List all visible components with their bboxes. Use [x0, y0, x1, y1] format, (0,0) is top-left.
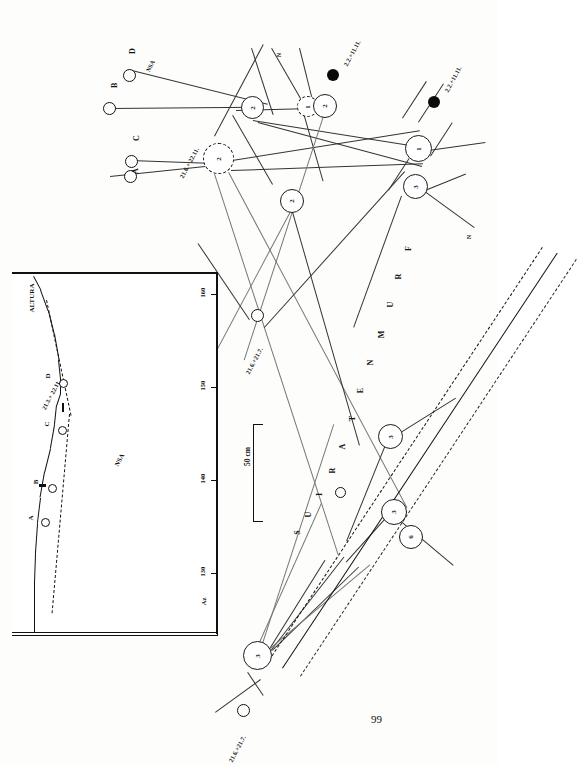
chart-tick — [211, 573, 217, 574]
plan-node-label: 3 — [390, 510, 398, 514]
plan-node-label: 2 — [215, 157, 223, 161]
plan-node[interactable]: 3 — [381, 499, 407, 525]
page-number: 99 — [371, 713, 382, 725]
north-mark: N — [466, 235, 472, 239]
plan-date-label: 21.6.+21.7. — [227, 734, 247, 763]
chart-curve-solid — [34, 582, 35, 632]
sight-line — [214, 174, 339, 555]
plan-date-label: 2.2.+11.11. — [443, 65, 463, 94]
scale-bar — [253, 424, 263, 522]
chart-bottom-border — [12, 632, 217, 633]
sight-line — [353, 196, 402, 328]
sight-line — [290, 205, 360, 446]
chart-yaxis-label: ALTURA — [28, 284, 36, 313]
scale-bar-label: 50 cm — [243, 447, 252, 466]
chart-tick-label: 130 — [200, 567, 207, 577]
plan-node-label: 3 — [387, 435, 395, 439]
plan-date-label-nsa: NSA — [145, 59, 156, 73]
chart-point-label-a: A — [27, 515, 35, 520]
sight-line — [247, 672, 263, 696]
plan-node-label: 2 — [249, 106, 257, 110]
sight-line — [244, 113, 325, 361]
chart-top-border — [12, 273, 217, 274]
stone-marker[interactable] — [251, 309, 264, 322]
inset-chart: 160 150 140 130 Az ALTURA D — [12, 272, 217, 634]
plan-node-label: 2 — [321, 104, 329, 108]
plan-date-label: 2.2.+11.11. — [342, 39, 362, 68]
plan-node-label: 3 — [254, 654, 262, 658]
plan-node[interactable]: 1 — [405, 135, 432, 162]
plan-node[interactable]: 2 — [280, 189, 304, 213]
stone-marker-c[interactable] — [125, 155, 138, 168]
avenue-glyph: T — [348, 416, 357, 421]
sight-line — [214, 44, 264, 136]
avenue-centre-line — [282, 253, 558, 669]
stone-marker-b[interactable] — [103, 102, 116, 115]
plan-node[interactable]: 3 — [378, 424, 403, 449]
chart-tick — [211, 480, 217, 481]
stone-label-b: B — [110, 83, 119, 88]
sight-line — [232, 130, 420, 161]
avenue-glyph: E — [356, 388, 365, 393]
stone-label-a: A — [131, 168, 140, 174]
chart-axis — [216, 272, 217, 634]
plan-node[interactable]: 2 — [241, 96, 264, 119]
avenue-glyph: U — [304, 512, 313, 518]
stone-marker-d[interactable] — [123, 69, 136, 82]
north-mark: N — [276, 53, 282, 57]
plan-node[interactable]: 3 — [243, 641, 272, 670]
stone-label-d: D — [128, 48, 137, 54]
chart-xaxis-label: Az — [201, 598, 208, 606]
plan-node-label: 1 — [415, 147, 423, 151]
filled-marker[interactable] — [327, 69, 339, 81]
chart-point-c[interactable] — [58, 426, 67, 435]
plan-node-label: 3 — [412, 185, 420, 189]
avenue-glyph: A — [338, 444, 347, 450]
chart-tick — [211, 387, 217, 388]
plan-node[interactable]: 3 — [403, 174, 428, 199]
chart-frame — [12, 272, 218, 636]
plan-node-label: 2 — [288, 199, 296, 203]
stone-label-c: C — [132, 135, 141, 141]
sight-line — [258, 122, 422, 167]
avenue-glyph: U — [386, 302, 395, 308]
avenue-glyph: S — [293, 530, 302, 534]
avenue-glyph: F — [404, 246, 413, 251]
avenue-tick — [430, 122, 453, 156]
avenue-glyph: R — [394, 274, 403, 280]
chart-point-a[interactable] — [41, 518, 50, 527]
avenue-glyph: N — [366, 360, 375, 366]
chart-tick-label: 160 — [200, 288, 207, 298]
filled-marker[interactable] — [428, 96, 440, 108]
avenue-rail-right — [300, 259, 577, 676]
chart-tick-label: 150 — [200, 381, 207, 391]
avenue-glyph: I — [315, 493, 324, 496]
chart-bar-mark — [39, 484, 46, 487]
plan-node[interactable]: 6 — [399, 525, 423, 549]
chart-tick — [211, 294, 217, 295]
chart-tick-label: 140 — [200, 474, 207, 484]
chart-point-label-c: C — [43, 421, 51, 426]
plan-node-label: 6 — [407, 535, 415, 539]
stone-marker[interactable] — [237, 704, 250, 717]
plan-node[interactable]: 2 — [203, 143, 234, 174]
plan-node[interactable]: 2 — [313, 94, 337, 118]
chart-bar-mark — [62, 403, 64, 412]
plan-node-label: 1 — [304, 105, 312, 109]
avenue-marker[interactable] — [335, 487, 346, 498]
chart-point-label-d: D — [44, 373, 52, 378]
avenue-rail-left — [266, 247, 543, 664]
chart-point-b[interactable] — [48, 484, 57, 493]
avenue-glyph: M — [377, 331, 386, 339]
avenue-glyph: R — [328, 468, 337, 474]
